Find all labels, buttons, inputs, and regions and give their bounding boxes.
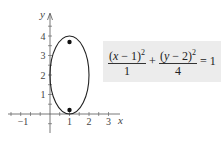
y-tick-label: 2	[41, 70, 46, 81]
focus-point-upper	[67, 40, 71, 44]
y-tick-label: 4	[41, 31, 46, 42]
fraction-x-term: (x − 1)2 1	[108, 47, 146, 77]
y-tick-label: 1	[41, 89, 46, 100]
y-tick-label: 3	[41, 50, 46, 61]
x-axis-label: x	[117, 114, 123, 126]
equals-one: = 1	[200, 54, 216, 71]
x-tick-label: −1	[18, 116, 29, 127]
x-tick-label: 3	[106, 116, 111, 127]
focus-point-lower	[67, 108, 71, 112]
ellipse-equation: (x − 1)2 1 + (y − 2)2 4 = 1	[108, 47, 219, 77]
ellipse-curve	[50, 36, 89, 114]
fraction-y-term: (y − 2)2 4	[159, 47, 197, 77]
plus-sign: +	[149, 54, 156, 71]
x-tick-label: 2	[87, 116, 92, 127]
x-tick-label: 1	[67, 116, 72, 127]
y-axis-label: y	[39, 8, 45, 20]
equation-box: (x − 1)2 1 + (y − 2)2 4 = 1	[103, 41, 221, 82]
